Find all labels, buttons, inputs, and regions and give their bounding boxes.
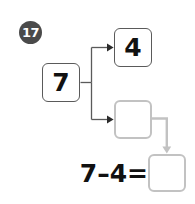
equation-answer-box[interactable]	[148, 154, 186, 192]
worksheet-canvas: 17 7 4 7–4=	[0, 0, 195, 204]
question-number-badge: 17	[19, 21, 42, 44]
number-bond-part-blank-box[interactable]	[114, 100, 152, 139]
arrowhead-to-part-blank	[107, 116, 114, 124]
equation-text: 7–4=	[68, 158, 148, 190]
branch-lines-dark	[81, 48, 108, 120]
arrowhead-to-part-known	[107, 44, 114, 52]
arrowhead-to-answer	[162, 147, 171, 154]
number-bond-part-known-box[interactable]: 4	[114, 28, 152, 67]
number-bond-whole-box[interactable]: 7	[42, 63, 80, 102]
answer-link-line-gray	[152, 119, 167, 148]
